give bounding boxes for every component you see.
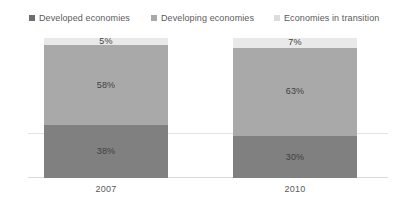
bar-segment-label-2007-developed-economies: 38% — [97, 147, 116, 156]
x-axis-label-2010: 2010 — [233, 182, 357, 196]
bar-segment-2010-economies-in-transition[interactable]: 7% — [233, 38, 357, 48]
x-axis-category-labels: 2007 2010 — [0, 182, 405, 198]
stacked-bar-2010[interactable]: 7% 63% 30% — [233, 38, 357, 178]
x-axis-label-2007: 2007 — [44, 182, 168, 196]
bar-segment-label-2007-developing-economies: 58% — [97, 81, 116, 90]
bar-segment-label-2010-developing-economies: 63% — [286, 87, 305, 96]
stacked-bar-2007[interactable]: 5% 58% 38% — [44, 38, 168, 178]
bar-segment-2010-developing-economies[interactable]: 63% — [233, 48, 357, 136]
legend-swatch-icon-developed-economies — [29, 15, 35, 21]
legend-swatch-icon-economies-in-transition — [274, 15, 280, 21]
bar-segment-label-2010-economies-in-transition: 7% — [288, 38, 301, 47]
chart-container: Developed economies Developing economies… — [0, 0, 405, 210]
bar-segment-2007-developing-economies[interactable]: 58% — [44, 45, 168, 125]
bar-segment-label-2010-developed-economies: 30% — [286, 153, 305, 162]
legend-item-developing-economies[interactable]: Developing economies — [151, 14, 254, 23]
legend-item-developed-economies[interactable]: Developed economies — [29, 14, 130, 23]
chart-legend: Developed economies Developing economies… — [0, 9, 405, 27]
legend-item-economies-in-transition[interactable]: Economies in transition — [274, 14, 379, 23]
legend-label-economies-in-transition: Economies in transition — [284, 14, 379, 23]
bar-segment-2010-developed-economies[interactable]: 30% — [233, 136, 357, 178]
legend-swatch-icon-developing-economies — [151, 15, 157, 21]
legend-label-developing-economies: Developing economies — [161, 14, 254, 23]
bar-segment-2007-economies-in-transition[interactable]: 5% — [44, 38, 168, 45]
bar-segment-label-2007-economies-in-transition: 5% — [99, 38, 112, 45]
bar-segment-2007-developed-economies[interactable]: 38% — [44, 125, 168, 178]
plot-area: 5% 58% 38% 7% 63% 30% — [0, 38, 405, 178]
legend-label-developed-economies: Developed economies — [39, 14, 130, 23]
